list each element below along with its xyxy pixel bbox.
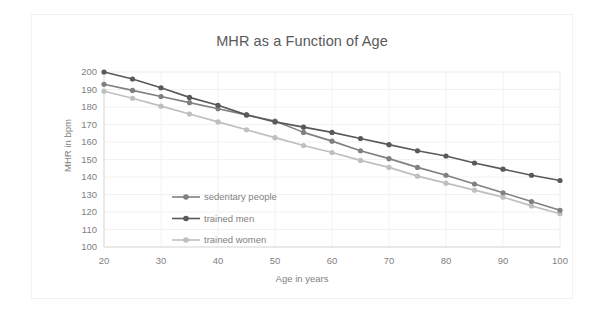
data-point — [358, 158, 363, 163]
data-point — [443, 181, 448, 186]
chart-legend: sedentary peopletrained mentrained women — [172, 191, 277, 245]
x-tick-label: 70 — [384, 255, 395, 266]
data-point — [130, 88, 135, 93]
data-point — [386, 142, 391, 147]
data-point — [557, 178, 562, 183]
data-point — [301, 130, 306, 135]
data-point — [158, 85, 163, 90]
data-point — [101, 89, 106, 94]
legend-item[interactable]: trained men — [172, 213, 254, 224]
data-point — [187, 95, 192, 100]
x-axis-ticks: 2030405060708090100 — [99, 255, 568, 266]
data-point — [472, 181, 477, 186]
x-tick-label: 80 — [441, 255, 452, 266]
data-point — [244, 127, 249, 132]
data-point — [158, 104, 163, 109]
data-point — [386, 156, 391, 161]
legend-marker-icon — [183, 194, 189, 200]
plot-area: 100110120130140150160170180190200 203040… — [32, 15, 574, 300]
data-point — [443, 173, 448, 178]
data-point — [415, 165, 420, 170]
legend-label: sedentary people — [204, 191, 277, 202]
y-tick-label: 200 — [81, 66, 97, 77]
x-tick-label: 60 — [327, 255, 338, 266]
data-point — [130, 96, 135, 101]
data-point — [329, 130, 334, 135]
y-tick-label: 100 — [81, 241, 97, 252]
data-point — [272, 119, 277, 124]
x-tick-label: 20 — [99, 255, 110, 266]
data-point — [443, 153, 448, 158]
y-tick-label: 120 — [81, 206, 97, 217]
data-point — [358, 136, 363, 141]
data-point — [215, 103, 220, 108]
data-point — [272, 135, 277, 140]
data-point — [329, 150, 334, 155]
legend-item[interactable]: sedentary people — [172, 191, 277, 202]
data-point — [130, 76, 135, 81]
y-tick-label: 190 — [81, 84, 97, 95]
data-point — [472, 160, 477, 165]
x-tick-label: 40 — [213, 255, 224, 266]
data-point — [529, 199, 534, 204]
data-point — [158, 94, 163, 99]
data-point — [301, 125, 306, 130]
data-point — [500, 190, 505, 195]
y-axis-ticks: 100110120130140150160170180190200 — [81, 66, 97, 252]
y-tick-label: 180 — [81, 101, 97, 112]
data-point — [386, 165, 391, 170]
data-point — [472, 188, 477, 193]
data-point — [415, 148, 420, 153]
data-point — [329, 139, 334, 144]
x-tick-label: 30 — [156, 255, 167, 266]
data-point — [500, 167, 505, 172]
y-tick-label: 170 — [81, 119, 97, 130]
data-point — [187, 111, 192, 116]
y-tick-label: 150 — [81, 154, 97, 165]
legend-label: trained women — [204, 234, 266, 245]
legend-marker-icon — [183, 237, 189, 243]
y-tick-label: 130 — [81, 189, 97, 200]
x-tick-label: 50 — [270, 255, 281, 266]
data-point — [358, 148, 363, 153]
legend-item[interactable]: trained women — [172, 234, 266, 245]
data-point — [101, 69, 106, 74]
data-point — [415, 174, 420, 179]
data-point — [529, 173, 534, 178]
data-point — [187, 100, 192, 105]
data-point — [244, 112, 249, 117]
data-point — [557, 208, 562, 213]
chart-container: MHR as a Function of Age MHR in bpm Age … — [31, 14, 573, 299]
data-point — [301, 143, 306, 148]
legend-label: trained men — [204, 213, 254, 224]
x-tick-label: 90 — [498, 255, 509, 266]
y-tick-label: 140 — [81, 171, 97, 182]
data-point — [101, 82, 106, 87]
y-tick-label: 110 — [82, 224, 97, 235]
data-point — [215, 119, 220, 124]
legend-marker-icon — [183, 216, 189, 222]
y-tick-label: 160 — [81, 136, 97, 147]
x-tick-label: 100 — [552, 255, 568, 266]
